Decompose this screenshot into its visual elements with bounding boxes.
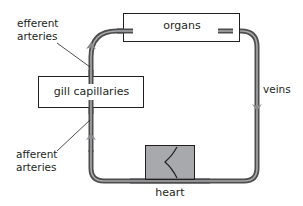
veins-label: veins	[263, 83, 291, 95]
afferent-leader-line	[57, 120, 90, 151]
gill-capillaries-label: gill capillaries	[39, 85, 144, 98]
efferent-leader-line	[57, 43, 90, 67]
heart-icon	[130, 146, 210, 182]
heart-label: heart	[145, 186, 195, 199]
afferent-label-line1: afferent	[16, 148, 57, 160]
efferent-label-line2: arteries	[17, 30, 58, 42]
organs-label: organs	[124, 19, 240, 32]
efferent-label-line1: efferent	[17, 17, 58, 29]
afferent-label-line2: arteries	[16, 161, 57, 173]
